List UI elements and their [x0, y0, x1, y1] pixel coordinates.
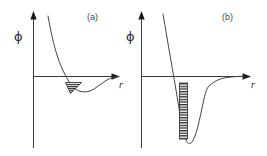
panel-b-potential-curve: [163, 14, 244, 144]
figure-canvas: [0, 0, 267, 156]
panel-b-caption: (b): [222, 13, 233, 22]
panel-a-x-axis: [34, 73, 121, 79]
panel-b-x-axis-label: r: [251, 80, 255, 90]
panel-b-y-axis-label: ϕ: [126, 30, 135, 43]
panel-b-y-axis: [138, 11, 144, 148]
panel-a-potential-curve: [48, 16, 118, 92]
y-axis-arrow-icon: [30, 11, 36, 20]
panel-a-caption: (a): [87, 13, 98, 22]
panel-b-well-depth-hatch: [180, 83, 188, 139]
panel-a-y-axis: [30, 11, 36, 148]
y-axis-arrow-icon: [138, 11, 144, 20]
panel-a-y-axis-label: ϕ: [14, 30, 23, 43]
panel-a: [30, 11, 120, 148]
panel-b: [138, 11, 251, 148]
panel-a-well-depth-hatch: [66, 83, 82, 94]
potential-energy-figure: ϕ r (a) ϕ r (b): [0, 0, 267, 156]
panel-a-x-axis-label: r: [119, 80, 123, 90]
